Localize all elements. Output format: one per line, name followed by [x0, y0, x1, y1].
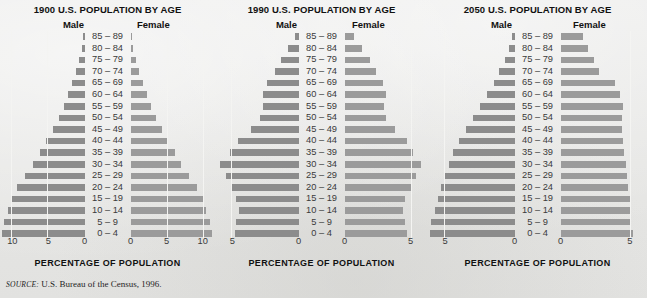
- pyramid-row: 10 – 14: [0, 205, 215, 217]
- pyramid-row: 20 – 24: [428, 182, 647, 194]
- bar-female: [561, 89, 647, 101]
- gridline: [11, 193, 12, 205]
- bar-female: [131, 205, 214, 217]
- pyramid-row: 15 – 19: [0, 193, 215, 205]
- age-group-label: 55 – 59: [515, 101, 561, 113]
- gridline: [630, 66, 631, 78]
- age-group-label: 75 – 79: [85, 54, 131, 66]
- gridline: [231, 43, 232, 55]
- gridline: [444, 159, 445, 171]
- gridline: [411, 66, 412, 78]
- age-group-label: 50 – 54: [85, 112, 131, 124]
- gridline: [231, 66, 232, 78]
- gridline: [444, 193, 445, 205]
- gridline: [630, 124, 631, 136]
- pyramid-row: 20 – 24: [215, 182, 428, 194]
- gridline: [630, 89, 631, 101]
- pyramid-row: 60 – 64: [428, 89, 647, 101]
- age-group-label: 35 – 39: [85, 147, 131, 159]
- bar-female: [345, 217, 427, 229]
- gridline: [167, 205, 168, 217]
- gridline: [47, 43, 48, 55]
- bar-male: [429, 112, 515, 124]
- bar-male: [2, 77, 85, 89]
- gridline: [47, 112, 48, 124]
- age-group-label: 25 – 29: [299, 170, 345, 182]
- bar-female: [131, 77, 214, 89]
- gridline: [630, 159, 631, 171]
- bar-female: [561, 66, 647, 78]
- gridline: [11, 170, 12, 182]
- bar-female: [345, 159, 427, 171]
- gridline: [411, 43, 412, 55]
- gridline: [411, 54, 412, 66]
- gridline: [167, 54, 168, 66]
- gridline: [167, 159, 168, 171]
- gridline: [11, 159, 12, 171]
- gridline: [47, 147, 48, 159]
- gridline: [167, 147, 168, 159]
- age-group-label: 85 – 89: [85, 31, 131, 43]
- pyramid-row: 65 – 69: [428, 77, 647, 89]
- age-group-label: 5 – 9: [85, 217, 131, 229]
- pyramid-row: 70 – 74: [0, 66, 215, 78]
- gridline: [47, 170, 48, 182]
- pyramid-row: 5 – 9: [215, 217, 428, 229]
- gridline: [203, 193, 204, 205]
- age-group-label: 30 – 34: [515, 159, 561, 171]
- bar-female: [131, 135, 214, 147]
- age-group-label: 50 – 54: [515, 112, 561, 124]
- gridline: [630, 101, 631, 113]
- bar-female: [561, 193, 647, 205]
- bar-male: [2, 112, 85, 124]
- bar-male: [2, 135, 85, 147]
- gridline: [411, 101, 412, 113]
- bar-male: [429, 89, 515, 101]
- age-group-label: 75 – 79: [299, 54, 345, 66]
- bar-male: [2, 89, 85, 101]
- pyramid-row: 35 – 39: [428, 147, 647, 159]
- bar-male: [429, 31, 515, 43]
- pyramid-row: 75 – 79: [428, 54, 647, 66]
- gridline: [167, 112, 168, 124]
- gridline: [444, 89, 445, 101]
- bar-male: [217, 124, 299, 136]
- gridline: [444, 217, 445, 229]
- axis-title-1900: PERCENTAGE OF POPULATION: [0, 258, 215, 268]
- bar-male: [217, 205, 299, 217]
- pyramid-row: 20 – 24: [0, 182, 215, 194]
- gridline: [444, 170, 445, 182]
- bar-female: [131, 66, 214, 78]
- bar-female: [561, 101, 647, 113]
- bar-male: [429, 124, 515, 136]
- gridline: [630, 112, 631, 124]
- pyramid-row: 70 – 74: [428, 66, 647, 78]
- bar-female: [345, 205, 427, 217]
- gridline: [444, 205, 445, 217]
- gridline: [231, 147, 232, 159]
- x-axis-1990: 5005: [215, 236, 428, 250]
- chart-panels: 1900 U.S. POPULATION BY AGE Male Female …: [0, 0, 647, 262]
- gridline: [203, 89, 204, 101]
- pyramid-row: 15 – 19: [428, 193, 647, 205]
- pyramid-row: 35 – 39: [0, 147, 215, 159]
- pyramid-row: 35 – 39: [215, 147, 428, 159]
- gridline: [167, 193, 168, 205]
- bar-male: [2, 193, 85, 205]
- gridline: [47, 135, 48, 147]
- gridline: [444, 31, 445, 43]
- age-group-label: 5 – 9: [515, 217, 561, 229]
- bar-female: [345, 31, 427, 43]
- gridline: [167, 135, 168, 147]
- panel-title-1990: 1990 U.S. POPULATION BY AGE: [215, 4, 428, 15]
- bar-male: [2, 182, 85, 194]
- gridline: [11, 205, 12, 217]
- gridline: [411, 124, 412, 136]
- bar-male: [429, 54, 515, 66]
- gridline: [167, 217, 168, 229]
- bar-female: [345, 112, 427, 124]
- legend-female-2050: Female: [573, 19, 635, 30]
- gridline: [47, 217, 48, 229]
- bar-male: [2, 54, 85, 66]
- bar-male: [429, 170, 515, 182]
